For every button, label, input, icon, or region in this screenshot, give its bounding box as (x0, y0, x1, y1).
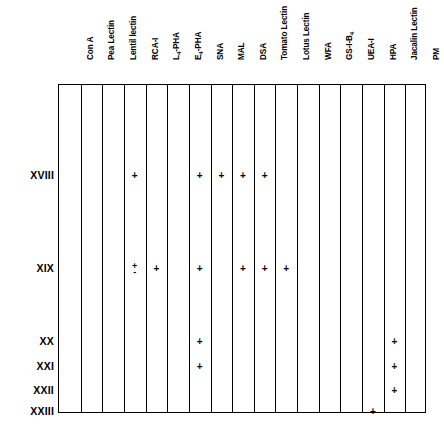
cell-mark-row-xxiii-hpa: + (366, 407, 380, 417)
column-header-con-a: Con A (80, 0, 102, 62)
column-divider (81, 85, 82, 412)
column-divider (297, 85, 298, 412)
column-divider (362, 85, 363, 412)
column-divider (340, 85, 341, 412)
row-label-row-xviii: XVIII (0, 169, 54, 181)
cell-mark-row-xix-sna: + (193, 264, 207, 274)
column-header-lentil-lectin: Lentil lectin (123, 0, 145, 62)
cell-mark-row-xix-dsa: + (236, 264, 250, 274)
column-divider (124, 85, 125, 412)
column-divider (167, 85, 168, 412)
cell-mark-row-xviii-dsa: + (236, 171, 250, 181)
column-header-wfa: WFA (318, 0, 340, 62)
row-label-row-xx: XX (0, 335, 54, 347)
column-header-label: Tomato Lectin (281, 6, 289, 60)
row-label-row-xxiii: XXIII (0, 405, 54, 417)
column-header-label: Jacalin Lectin (411, 8, 419, 61)
column-header-label: HPA (389, 44, 397, 60)
column-divider (254, 85, 255, 412)
cell-mark-row-xviii-sna: + (193, 171, 207, 181)
cell-mark-row-xx-jacalin-lectin: + (388, 337, 402, 347)
row-label-row-xxii: XXII (0, 384, 54, 396)
cell-mark-row-xix-l4-pha: + (149, 264, 163, 274)
column-header-label: WFA (324, 43, 332, 61)
column-header-pea-lectin: Pea Lectin (101, 0, 123, 62)
column-header-label: GS-I-B4 (346, 32, 354, 60)
column-divider (146, 85, 147, 412)
column-header-tomato-lectin: Tomato Lectin (274, 0, 296, 62)
column-header-label: PM (433, 48, 441, 60)
column-header-lotus-lectin: Lotus Lectin (296, 0, 318, 62)
column-divider (102, 85, 103, 412)
cell-mark-row-xxii-jacalin-lectin: + (388, 386, 402, 396)
column-divider (275, 85, 276, 412)
column-header-jacalin-lectin: Jacalin Lectin (404, 0, 426, 62)
column-header-label: SNA (216, 43, 224, 60)
column-divider (319, 85, 320, 412)
column-header-label: DSA (259, 43, 267, 60)
column-header-band: Con APea LectinLentil lectinRCA-IL4-PHAE… (58, 0, 426, 84)
column-header-label: Pea Lectin (108, 20, 116, 60)
column-header-label: Lotus Lectin (303, 13, 311, 60)
column-header-label: Lentil lectin (130, 16, 138, 60)
column-divider (384, 85, 385, 412)
column-header-dsa: DSA (253, 0, 275, 62)
column-header-label: MAL (238, 43, 246, 60)
minus-glyph: - (128, 270, 142, 275)
column-header-label: L4-PHA (173, 33, 181, 61)
row-label-row-xix: XIX (0, 262, 54, 274)
cell-mark-row-xix-tomato-lectin: + (258, 264, 272, 274)
column-divider (405, 85, 406, 412)
column-header-label: RCA-I (151, 38, 159, 60)
column-divider (211, 85, 212, 412)
column-header-l4-pha: L4-PHA (166, 0, 188, 62)
column-header-gs-i-b4: GS-I-B4 (339, 0, 361, 62)
column-header-pm: PM (426, 0, 444, 62)
column-header-hpa: HPA (383, 0, 405, 62)
column-header-e4-pha: E4-PHA (188, 0, 210, 62)
cell-mark-row-xix-rca-i: +- (128, 263, 142, 275)
column-header-label: E4-PHA (195, 32, 203, 60)
cell-mark-row-xxi-sna: + (193, 362, 207, 372)
column-header-label: UEA-I (368, 39, 376, 61)
column-divider (232, 85, 233, 412)
cell-mark-row-xxi-jacalin-lectin: + (388, 362, 402, 372)
row-label-row-xxi: XXI (0, 360, 54, 372)
column-header-mal: MAL (231, 0, 253, 62)
column-header-uea-i: UEA-I (361, 0, 383, 62)
cell-mark-row-xx-sna: + (193, 337, 207, 347)
column-header-rca-i: RCA-I (145, 0, 167, 62)
cell-mark-row-xix-lotus-lectin: + (279, 264, 293, 274)
column-header-sna: SNA (210, 0, 232, 62)
column-divider (189, 85, 190, 412)
cell-mark-row-xviii-mal: + (214, 171, 228, 181)
column-header-label: Con A (86, 37, 94, 60)
cell-mark-row-xviii-tomato-lectin: + (258, 171, 272, 181)
table-grid: ++++++-+++++++++++ (58, 84, 426, 413)
cell-mark-row-xviii-rca-i: + (128, 171, 142, 181)
